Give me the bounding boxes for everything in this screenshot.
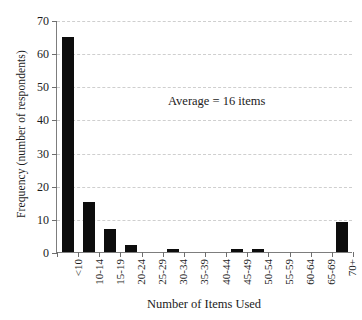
y-axis-tick-label: 0	[43, 246, 49, 261]
x-axis-tick-label: 30-34	[177, 259, 189, 285]
y-axis-tick-label: 50	[37, 80, 49, 95]
x-axis-tick-label: 45-49	[241, 259, 253, 285]
x-axis-tick-label: 15-19	[114, 259, 126, 285]
bar	[167, 249, 179, 252]
x-axis-tick-mark	[311, 252, 312, 257]
x-axis-tick-mark	[226, 252, 227, 257]
x-axis-tick-label: 40-44	[220, 259, 232, 285]
x-axis-tick-label: 50-54	[262, 259, 274, 285]
y-axis-tick-label: 70	[37, 14, 49, 29]
bar	[336, 222, 348, 252]
y-axis-tick-label: 10	[37, 212, 49, 227]
gridline	[57, 21, 352, 22]
x-axis-tick-mark	[247, 252, 248, 257]
x-axis-tick-label: 35-39	[198, 259, 210, 285]
x-axis-tick-label: 10-14	[93, 259, 105, 285]
y-axis-tick-mark	[52, 87, 57, 88]
x-axis-tick-label: 25-29	[156, 259, 168, 285]
x-axis-title: Number of Items Used	[56, 297, 352, 312]
y-axis-title: Frequency (number of respondents)	[15, 9, 27, 259]
plot-area: 010203040506070	[56, 21, 352, 253]
gridline	[57, 120, 352, 121]
x-axis-tick-label: 65-69	[325, 259, 337, 285]
x-axis-tick-mark	[78, 252, 79, 257]
bar	[83, 202, 95, 252]
x-axis-tick-mark	[120, 252, 121, 257]
x-axis-tick-label: 60-64	[304, 259, 316, 285]
y-axis-tick-label: 30	[37, 146, 49, 161]
x-axis-tick-mark	[353, 252, 354, 257]
gridline	[57, 54, 352, 55]
gridline	[57, 187, 352, 188]
bar	[125, 245, 137, 252]
x-axis-tick-mark	[57, 252, 58, 257]
x-axis-tick-label: <10	[72, 259, 84, 276]
y-axis-tick-mark	[52, 21, 57, 22]
bar-chart-figure: Frequency (number of respondents) 010203…	[0, 0, 362, 320]
x-axis-tick-mark	[99, 252, 100, 257]
y-axis-tick-mark	[52, 54, 57, 55]
y-axis-tick-mark	[52, 154, 57, 155]
x-axis-tick-mark	[268, 252, 269, 257]
x-axis-tick-mark	[142, 252, 143, 257]
x-axis-tick-mark	[290, 252, 291, 257]
y-axis-tick-label: 60	[37, 47, 49, 62]
gridline	[57, 154, 352, 155]
x-axis-tick-mark	[332, 252, 333, 257]
bar	[252, 249, 264, 252]
x-axis-tick-mark	[163, 252, 164, 257]
bar	[104, 229, 116, 252]
average-annotation: Average = 16 items	[168, 94, 265, 109]
y-axis-tick-mark	[52, 187, 57, 188]
y-axis-tick-mark	[52, 120, 57, 121]
x-axis-tick-label: 55-59	[283, 259, 295, 285]
x-axis-tick-label: 20-24	[135, 259, 147, 285]
gridline	[57, 87, 352, 88]
y-axis-tick-mark	[52, 220, 57, 221]
gridline	[57, 220, 352, 221]
x-axis-tick-label: 70+	[346, 259, 358, 276]
x-axis-tick-mark	[184, 252, 185, 257]
bar	[231, 249, 243, 252]
y-axis-tick-label: 40	[37, 113, 49, 128]
y-axis-tick-label: 20	[37, 179, 49, 194]
bar	[62, 37, 74, 252]
x-axis-tick-mark	[205, 252, 206, 257]
